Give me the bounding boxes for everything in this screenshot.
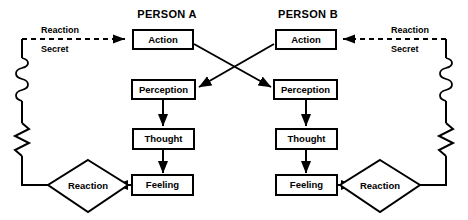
node-b-action[interactable]: Action bbox=[275, 29, 337, 50]
feedback-left-label-secret: Secret bbox=[41, 45, 69, 54]
wire-left-bottom bbox=[22, 156, 48, 185]
coil-left bbox=[16, 58, 28, 101]
wire-right-bottom bbox=[420, 156, 446, 185]
edge-a-action-to-b-perception bbox=[194, 44, 271, 87]
node-a-thought[interactable]: Thought bbox=[132, 128, 195, 150]
feedback-right-label-secret: Secret bbox=[391, 45, 419, 54]
header-person-a-label: PERSON A bbox=[137, 8, 196, 20]
header-person-b: PERSON B bbox=[253, 8, 363, 20]
node-b-action-label: Action bbox=[291, 35, 321, 45]
node-b-reaction[interactable]: Reaction bbox=[340, 181, 420, 191]
node-a-thought-label: Thought bbox=[145, 134, 183, 144]
node-b-thought-label: Thought bbox=[288, 134, 326, 144]
node-b-feeling[interactable]: Feeling bbox=[275, 174, 338, 196]
node-a-action[interactable]: Action bbox=[132, 29, 194, 50]
node-a-perception[interactable]: Perception bbox=[131, 79, 196, 100]
node-a-reaction[interactable]: Reaction bbox=[48, 181, 128, 191]
node-a-feeling-label: Feeling bbox=[146, 180, 179, 190]
header-person-b-label: PERSON B bbox=[278, 8, 338, 20]
node-b-perception[interactable]: Perception bbox=[273, 79, 338, 100]
node-b-thought[interactable]: Thought bbox=[275, 128, 338, 150]
node-b-perception-label: Perception bbox=[281, 85, 330, 95]
node-b-reaction-label: Reaction bbox=[360, 180, 400, 191]
header-person-a: PERSON A bbox=[112, 8, 222, 20]
feedback-left-label-reaction: Reaction bbox=[41, 26, 79, 35]
feedback-left-secret-text: Secret bbox=[41, 44, 69, 54]
coil-right bbox=[440, 58, 452, 101]
diagram-canvas: PERSON A PERSON B Action Perception Thou… bbox=[0, 0, 468, 220]
feedback-right-reaction-text: Reaction bbox=[391, 25, 429, 35]
resistor-right bbox=[439, 123, 453, 156]
node-a-feeling[interactable]: Feeling bbox=[131, 174, 194, 196]
node-b-feeling-label: Feeling bbox=[290, 180, 323, 190]
resistor-left bbox=[15, 123, 29, 156]
edge-b-action-to-a-perception bbox=[199, 44, 274, 87]
feedback-right-label-reaction: Reaction bbox=[391, 26, 429, 35]
node-a-action-label: Action bbox=[148, 35, 178, 45]
node-a-reaction-label: Reaction bbox=[68, 180, 108, 191]
feedback-right-secret-text: Secret bbox=[391, 44, 419, 54]
node-a-perception-label: Perception bbox=[139, 85, 188, 95]
feedback-left-reaction-text: Reaction bbox=[41, 25, 79, 35]
